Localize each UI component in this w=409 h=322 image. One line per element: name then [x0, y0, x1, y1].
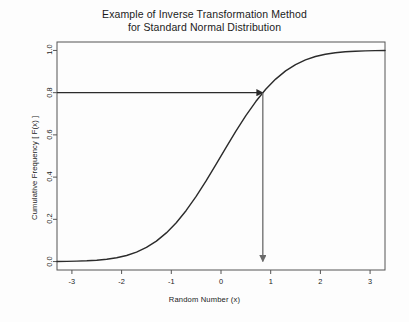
x-tick-label: -1: [156, 277, 186, 286]
x-tick-label: -3: [57, 277, 87, 286]
x-axis-title: Random Number (x): [0, 295, 409, 304]
plot-area: [0, 0, 409, 322]
y-tick-label: 1.0: [45, 38, 54, 62]
y-tick-label: 0.6: [45, 122, 54, 146]
x-tick-label: 3: [355, 277, 385, 286]
x-tick-label: -2: [107, 277, 137, 286]
y-tick-label: 0.8: [45, 80, 54, 104]
y-axis-ticks: [53, 50, 57, 261]
y-tick-label: 0.4: [45, 165, 54, 189]
y-axis-title: Cumulative Frequency [ F(x) ]: [30, 116, 39, 220]
x-tick-label: 0: [206, 277, 236, 286]
y-tick-label: 0.0: [45, 249, 54, 273]
series-line-standard-normal-cdf: [57, 51, 385, 262]
x-axis-ticks: [72, 270, 370, 274]
y-tick-label: 0.2: [45, 207, 54, 231]
chart-figure: Example of Inverse Transformation Method…: [0, 0, 409, 322]
x-tick-label: 1: [256, 277, 286, 286]
x-tick-label: 2: [305, 277, 335, 286]
